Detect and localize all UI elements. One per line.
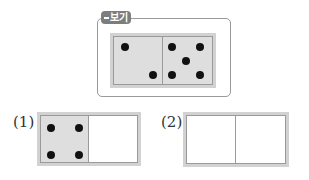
pip-icon bbox=[47, 124, 55, 132]
problem-2-domino-right-half[interactable] bbox=[236, 115, 286, 164]
example-domino-left-half bbox=[113, 36, 163, 85]
example-badge-label: 보기 bbox=[110, 12, 128, 23]
example-domino bbox=[110, 33, 216, 88]
badge-dash-icon bbox=[104, 17, 109, 19]
pip-icon bbox=[149, 71, 157, 79]
problem-1-label: (1) bbox=[13, 114, 34, 130]
problem-1-domino bbox=[37, 112, 141, 166]
example-domino-right-half bbox=[163, 36, 213, 85]
problem-1-domino-right-half[interactable] bbox=[89, 115, 138, 163]
pip-icon bbox=[196, 71, 204, 79]
pip-icon bbox=[168, 43, 176, 51]
pip-icon bbox=[75, 124, 83, 132]
example-badge: 보기 bbox=[101, 11, 131, 24]
problem-2-domino bbox=[183, 112, 289, 167]
pip-icon bbox=[168, 71, 176, 79]
pip-icon bbox=[182, 57, 190, 65]
pip-icon bbox=[75, 151, 83, 159]
problem-1-domino-left-half bbox=[40, 115, 89, 163]
problem-2-label: (2) bbox=[161, 114, 182, 130]
pip-icon bbox=[196, 43, 204, 51]
pip-icon bbox=[47, 151, 55, 159]
problem-2-domino-left-half[interactable] bbox=[186, 115, 236, 164]
pip-icon bbox=[121, 43, 129, 51]
